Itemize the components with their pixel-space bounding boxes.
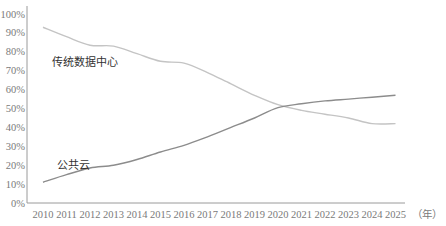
x-axis-ticks: 2010201120122013201420152016201720182019… bbox=[33, 209, 407, 220]
public-cloud-line bbox=[43, 95, 396, 182]
y-tick-label: 0% bbox=[11, 198, 25, 209]
x-tick-label: 2011 bbox=[56, 209, 77, 220]
x-tick-label: 2016 bbox=[174, 209, 195, 220]
x-tick-label: 2018 bbox=[221, 209, 242, 220]
x-tick-label: 2017 bbox=[197, 209, 218, 220]
y-tick-label: 30% bbox=[6, 141, 26, 152]
y-tick-label: 70% bbox=[6, 65, 26, 76]
y-tick-label: 20% bbox=[6, 160, 26, 171]
y-tick-label: 80% bbox=[6, 46, 26, 57]
x-tick-label: 2022 bbox=[315, 209, 336, 220]
traditional-datacenter-line bbox=[43, 27, 396, 124]
x-tick-label: 2014 bbox=[127, 209, 149, 220]
x-tick-label: 2012 bbox=[80, 209, 101, 220]
x-tick-label: 2021 bbox=[291, 209, 312, 220]
x-tick-label: 2019 bbox=[244, 209, 265, 220]
traditional-datacenter-label: 传统数据中心 bbox=[52, 55, 118, 69]
x-tick-label: 2024 bbox=[362, 209, 384, 220]
y-tick-label: 90% bbox=[6, 27, 26, 38]
y-tick-label: 40% bbox=[6, 122, 26, 133]
x-axis-unit-label: （年） bbox=[412, 208, 442, 220]
x-tick-label: 2023 bbox=[338, 209, 359, 220]
x-tick-label: 2013 bbox=[103, 209, 124, 220]
y-tick-label: 10% bbox=[6, 179, 26, 190]
y-tick-label: 50% bbox=[6, 103, 26, 114]
x-tick-label: 2025 bbox=[385, 209, 406, 220]
y-tick-label: 60% bbox=[6, 84, 26, 95]
x-tick-label: 2020 bbox=[268, 209, 289, 220]
y-tick-label: 100% bbox=[1, 9, 26, 20]
y-axis-ticks: 0%10%20%30%40%50%60%70%80%90%100% bbox=[1, 9, 26, 209]
line-chart: 0%10%20%30%40%50%60%70%80%90%100% 201020… bbox=[0, 0, 446, 226]
x-tick-label: 2015 bbox=[150, 209, 171, 220]
public-cloud-label: 公共云 bbox=[57, 159, 90, 172]
x-tick-label: 2010 bbox=[33, 209, 54, 220]
